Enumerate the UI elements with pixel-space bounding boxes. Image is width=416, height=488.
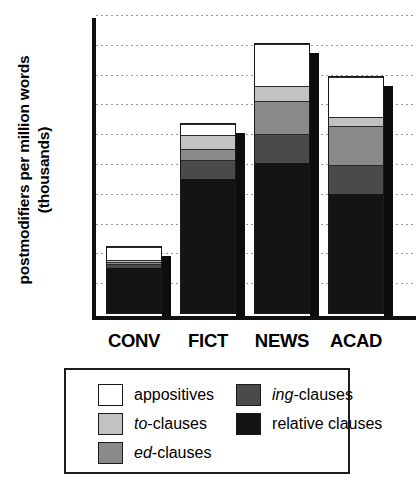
bar-segment-ed-clauses [255, 101, 309, 134]
legend-swatch [236, 413, 261, 435]
legend-swatch [98, 384, 123, 406]
x-axis-tick-label: FICT [171, 330, 245, 352]
legend-entries: appositivesing-clausesto-clausesrelative… [98, 384, 382, 464]
bar-3d-edge [162, 256, 171, 318]
legend-item-appositives: appositives [98, 384, 214, 406]
legend: appositivesing-clausesto-clausesrelative… [64, 368, 350, 474]
plot-area: 0510152025 CONVFICTNEWSACAD [92, 18, 416, 318]
bar-column [254, 43, 310, 314]
gridline [96, 15, 416, 16]
legend-label: to-clauses [134, 415, 207, 433]
legend-item-to-clauses: to-clauses [98, 413, 214, 435]
x-axis-tick-label: CONV [97, 330, 171, 352]
legend-item-relative-clauses: relative clauses [236, 413, 382, 435]
bar-segment-to-clauses [329, 117, 383, 126]
bar-column [180, 123, 236, 314]
bar-segment-appositives [255, 44, 309, 85]
legend-swatch [98, 442, 123, 464]
x-axis-tick-label: NEWS [245, 330, 319, 352]
legend-label: ing-clauses [272, 386, 353, 404]
bar-segment-relative-clauses [181, 179, 235, 313]
bar-segment-ing-clauses [255, 134, 309, 162]
legend-swatch [98, 413, 123, 435]
bar-3d-edge [236, 133, 245, 318]
bar-segment-relative-clauses [255, 163, 309, 313]
stacked-bar [106, 246, 162, 314]
bar-segment-appositives [107, 247, 161, 260]
bar-segment-relative-clauses [107, 268, 161, 313]
bar-segment-ing-clauses [329, 165, 383, 193]
bar-segment-appositives [181, 124, 235, 135]
x-axis-line [92, 316, 416, 320]
y-axis-line [92, 18, 96, 320]
stacked-bar-chart: postmodifiers per million words (thousan… [0, 0, 416, 360]
legend-label: ed-clauses [134, 444, 211, 462]
bar-segment-relative-clauses [329, 194, 383, 313]
legend-item-ing-clauses: ing-clauses [236, 384, 382, 406]
legend-swatch [236, 384, 261, 406]
stacked-bar [180, 123, 236, 314]
legend-label: appositives [134, 386, 214, 404]
legend-spacer [236, 442, 382, 464]
bar-3d-edge [310, 53, 319, 318]
legend-label: relative clauses [272, 415, 382, 433]
bar-column [106, 246, 162, 314]
bar-segment-to-clauses [255, 86, 309, 101]
bar-segment-ing-clauses [181, 160, 235, 179]
bar-segment-appositives [329, 77, 383, 117]
bar-column [328, 76, 384, 314]
bar-3d-edge [384, 86, 393, 318]
bar-segment-to-clauses [181, 135, 235, 149]
bar-segment-ed-clauses [329, 126, 383, 165]
stacked-bar [254, 43, 310, 314]
stacked-bar [328, 76, 384, 314]
y-axis-title: postmodifiers per million words (thousan… [14, 40, 54, 300]
legend-item-ed-clauses: ed-clauses [98, 442, 214, 464]
x-axis-tick-label: ACAD [319, 330, 393, 352]
bar-segment-ed-clauses [181, 149, 235, 160]
